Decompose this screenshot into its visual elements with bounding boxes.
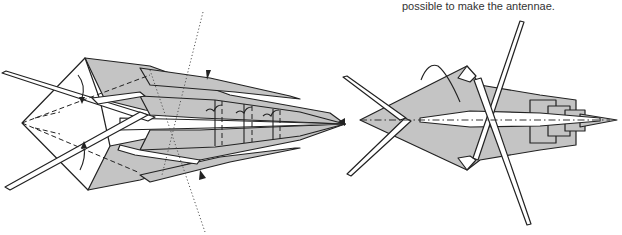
- right-diagram: [338, 21, 617, 225]
- push-arrow-bottom: [199, 170, 206, 180]
- left-diagram: [2, 12, 345, 232]
- origami-diagrams: [0, 0, 622, 235]
